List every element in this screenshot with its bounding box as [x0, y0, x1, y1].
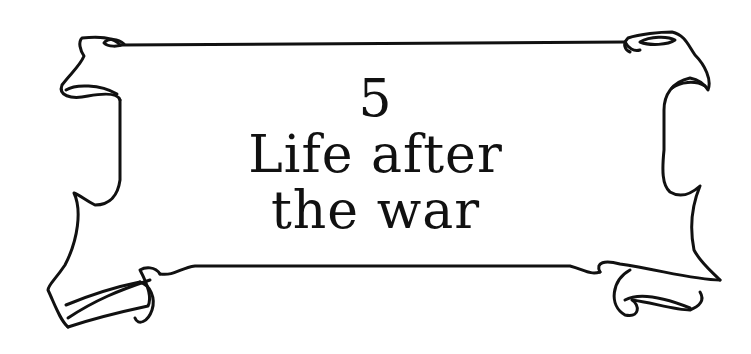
chapter-title-line-2: the war	[200, 182, 551, 238]
chapter-title-line-1: Life after	[200, 126, 551, 182]
chapter-heading: 5 Life after the war	[200, 70, 551, 238]
chapter-number: 5	[200, 70, 551, 126]
